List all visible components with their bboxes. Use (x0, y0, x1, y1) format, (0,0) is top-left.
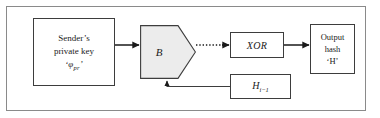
private-key-quote-close: ’ (80, 59, 83, 69)
xor-label: XOR (247, 40, 268, 51)
output-hash-line-1: Output (321, 31, 345, 43)
node-senders-private-key: Sender’s private key ‘φpr’ (33, 18, 115, 86)
figure-canvas: Sender’s private key ‘φpr’ B XOR Output … (0, 0, 380, 118)
private-key-line-1: Sender’s (58, 32, 89, 45)
output-hash-line-2: hash (325, 43, 341, 55)
node-xor: XOR (230, 32, 284, 58)
private-key-symbol: ‘φpr’ (65, 58, 83, 72)
private-key-line-2: private key (54, 45, 94, 58)
node-previous-hash: Hi−1 (230, 74, 291, 99)
node-block-b: B (140, 25, 196, 79)
output-hash-line-3: ‘H’ (327, 55, 339, 67)
previous-hash-subscript: i−1 (259, 86, 268, 93)
node-output-hash: Output hash ‘H’ (310, 24, 355, 74)
block-b-label: B (140, 25, 178, 79)
previous-hash-label: Hi−1 (252, 80, 269, 93)
